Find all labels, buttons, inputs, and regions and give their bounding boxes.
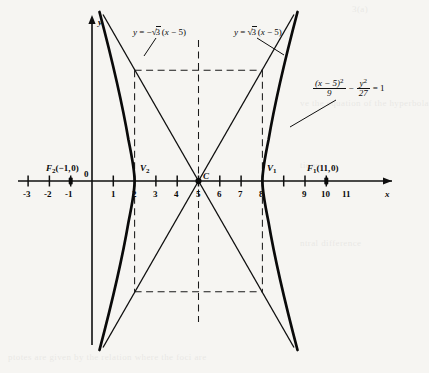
x-tick-label--2: -2 <box>44 190 52 199</box>
focus-right-marker <box>324 178 328 185</box>
center-marker <box>195 178 201 184</box>
leader-equation <box>290 100 336 127</box>
x-tick-label--1: -1 <box>65 190 73 199</box>
asymptote-left-equation-label: y = −√3 (x − 5) <box>133 28 186 37</box>
leader-asymptote-left <box>144 38 156 56</box>
focus-left-label: F2(−1, 0) <box>46 164 79 175</box>
asymptote-right-equation-label: y = √3 (x − 5) <box>234 28 282 37</box>
y-axis-label: y <box>98 18 102 27</box>
x-tick-label-7: 7 <box>238 190 243 199</box>
y-axis <box>88 15 95 345</box>
center-label: C <box>203 172 209 181</box>
x-tick-label-6: 6 <box>217 190 222 199</box>
x-tick-label-9: 9 <box>302 190 307 199</box>
x-tick-label-10: 10 <box>321 190 330 199</box>
x-tick-label-3: 3 <box>153 190 158 199</box>
vertex-right-label: V1 <box>267 164 277 175</box>
x-tick-label-4: 4 <box>174 190 179 199</box>
x-tick-label-0: 0 <box>84 170 89 179</box>
leader-asymptote-right <box>257 38 284 55</box>
x-tick-label-5: 5 <box>196 190 201 199</box>
x-tick-label-8: 8 <box>259 190 264 199</box>
focus-right-label: F1(11, 0) <box>307 164 339 175</box>
x-axis-label: x <box>385 190 390 199</box>
x-tick-label-1: 1 <box>111 190 116 199</box>
x-tick-label--3: -3 <box>23 190 31 199</box>
focus-left-marker <box>69 178 73 185</box>
x-tick-label-2: 2 <box>132 190 137 199</box>
vertex-left-label: V2 <box>140 164 150 175</box>
hyperbola-equation-label: (x − 5)2 9 − y2 27 = 1 <box>313 78 385 98</box>
leader-lines <box>144 38 336 127</box>
x-tick-label-11: 11 <box>342 190 351 199</box>
